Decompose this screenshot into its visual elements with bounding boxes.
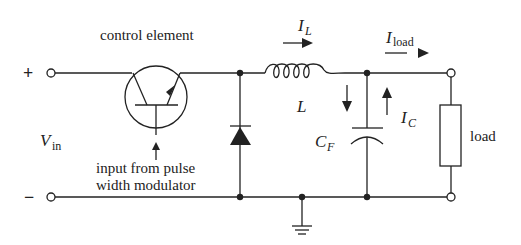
- label-pwm-line1: input from pulse: [96, 160, 195, 176]
- ic-arrow-icon: [382, 87, 392, 98]
- junction-dot: [364, 194, 370, 200]
- label-iload: I: [385, 28, 393, 47]
- junction-dot: [299, 194, 305, 200]
- junction-dot: [364, 70, 370, 76]
- label-ic-subscript: C: [408, 116, 417, 130]
- label-minus: −: [24, 187, 34, 207]
- inductor-coil: [265, 64, 345, 78]
- inductor-current-down-arrow-icon: [342, 101, 352, 112]
- label-plus: +: [23, 63, 33, 83]
- il-arrow-icon: [302, 38, 313, 48]
- input-terminal-plus: [47, 69, 55, 77]
- label-iload-subscript: load: [393, 35, 414, 49]
- buck-converter-schematic: control element + − V in input from puls…: [0, 0, 521, 245]
- label-inductor: L: [296, 97, 306, 116]
- label-cf: C: [315, 132, 327, 151]
- iload-arrow-icon: [418, 48, 429, 58]
- junction-dot: [237, 194, 243, 200]
- label-control-element: control element: [100, 27, 195, 43]
- output-terminal-bottom: [447, 193, 455, 201]
- transistor-control-element: [125, 66, 187, 135]
- load-resistor: [440, 105, 461, 166]
- label-il-subscript: L: [304, 24, 312, 38]
- pwm-input-arrow-icon: [152, 142, 160, 150]
- output-terminal-top: [447, 69, 455, 77]
- label-pwm-line2: width modulator: [96, 177, 196, 193]
- label-ic: I: [400, 108, 408, 127]
- emitter-arrow-icon: [166, 85, 175, 96]
- junction-dot: [237, 70, 243, 76]
- input-terminal-minus: [47, 193, 55, 201]
- label-vin-subscript: in: [52, 139, 61, 153]
- label-il: I: [297, 16, 305, 35]
- diode-icon: [230, 127, 251, 145]
- label-load: load: [470, 128, 496, 144]
- label-cf-subscript: F: [326, 140, 335, 154]
